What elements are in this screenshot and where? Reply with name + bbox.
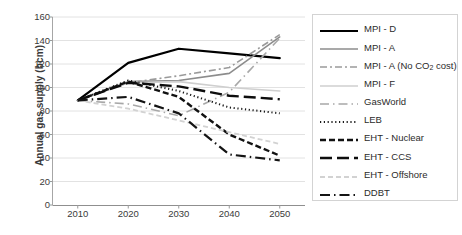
series-line-eht-nuclear <box>78 82 280 156</box>
legend-item-mpi-a-no-co2-cost[interactable]: MPI - A (No CO2 cost) <box>313 56 457 74</box>
legend-item-ddbt[interactable]: DDBT <box>313 184 457 202</box>
chart-legend: MPI - DMPI - AMPI - A (No CO2 cost)MPI -… <box>312 14 458 201</box>
legend-swatch-eht-offshore <box>319 169 359 181</box>
legend-swatch-eht-nuclear <box>319 132 359 144</box>
series-line-mpi-a <box>78 37 280 100</box>
legend-label-ddbt: DDBT <box>364 188 390 198</box>
legend-item-mpi-d[interactable]: MPI - D <box>313 20 457 38</box>
legend-item-mpi-f[interactable]: MPI - F <box>313 75 457 93</box>
legend-item-eht-nuclear[interactable]: EHT - Nuclear <box>313 129 457 147</box>
legend-swatch-ddbt <box>319 187 359 199</box>
series-line-ddbt <box>78 97 280 160</box>
x-tick-label: 2030 <box>157 209 201 219</box>
x-tick-label: 2050 <box>258 209 302 219</box>
y-axis-ticks <box>49 17 53 205</box>
x-tick-label: 2010 <box>56 209 100 219</box>
legend-swatch-leb <box>319 114 359 126</box>
legend-label-mpi-a-no-co2-cost: MPI - A (No CO2 cost) <box>364 61 457 71</box>
series-line-eht-offshore <box>78 100 280 143</box>
legend-swatch-eht-ccs <box>319 150 359 162</box>
legend-label-leb: LEB <box>364 115 382 125</box>
legend-item-eht-offshore[interactable]: EHT - Offshore <box>313 166 457 184</box>
x-tick-label: 2020 <box>106 209 150 219</box>
legend-item-leb[interactable]: LEB <box>313 111 457 129</box>
legend-swatch-mpi-d <box>319 23 359 35</box>
legend-label-mpi-a: MPI - A <box>364 43 395 53</box>
legend-swatch-gasworld <box>319 96 359 108</box>
legend-label-eht-ccs: EHT - CCS <box>364 152 411 162</box>
legend-label-eht-offshore: EHT - Offshore <box>364 170 428 180</box>
legend-swatch-mpi-f <box>319 78 359 90</box>
legend-item-mpi-a[interactable]: MPI - A <box>313 38 457 56</box>
series-line-mpi-d <box>78 49 280 101</box>
legend-label-mpi-f: MPI - F <box>364 79 395 89</box>
legend-item-eht-ccs[interactable]: EHT - CCS <box>313 147 457 165</box>
legend-swatch-mpi-a-no-co2-cost <box>319 59 359 71</box>
legend-label-mpi-d: MPI - D <box>364 24 396 34</box>
x-tick-label: 2040 <box>207 209 251 219</box>
legend-label-gasworld: GasWorld <box>364 97 406 107</box>
legend-label-eht-nuclear: EHT - Nuclear <box>364 133 424 143</box>
line-chart: Annual gas supply (bcm) 0204060801001201… <box>0 0 462 235</box>
series-line-eht-ccs <box>78 83 280 101</box>
legend-swatch-mpi-a <box>319 41 359 53</box>
legend-item-gasworld[interactable]: GasWorld <box>313 93 457 111</box>
data-series-group <box>78 35 280 161</box>
